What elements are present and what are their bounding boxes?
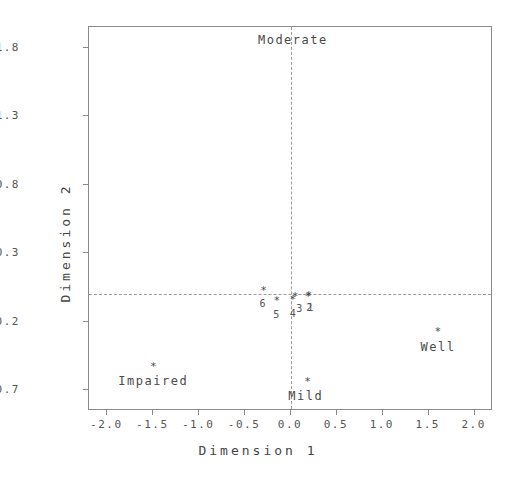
x-axis-tick-label: -1.0 bbox=[182, 418, 215, 431]
x-axis-tick-label: 1.0 bbox=[370, 418, 394, 431]
x-axis-tick bbox=[198, 410, 199, 415]
chart-canvas: Dimension 2 Dimension 1 -2.0-1.5-1.0-0.5… bbox=[0, 0, 516, 485]
data-point-marker: * bbox=[150, 360, 157, 371]
x-axis-tick bbox=[106, 410, 107, 415]
data-point-marker: * bbox=[435, 326, 442, 337]
x-axis-tick bbox=[290, 410, 291, 415]
y-axis-title: Dimension 2 bbox=[58, 183, 73, 302]
y-axis-tick-label: 0.8 bbox=[0, 177, 20, 190]
y-axis-tick-label: -0.7 bbox=[0, 383, 20, 396]
group-point-label: Moderate bbox=[258, 34, 328, 46]
x-axis-tick bbox=[382, 410, 383, 415]
item-point-label: 4 bbox=[290, 309, 296, 319]
item-point-label: 2 bbox=[306, 303, 312, 313]
y-axis-tick-label: 0.3 bbox=[0, 246, 20, 259]
x-axis-tick-label: 2.0 bbox=[461, 418, 485, 431]
item-point-label: 6 bbox=[260, 299, 266, 309]
x-axis-tick-label: 1.5 bbox=[416, 418, 440, 431]
data-point-marker: * bbox=[260, 285, 267, 296]
plot-clip: *Moderate*Well*Impaired*Mild*1*2*3*4*5*6 bbox=[89, 27, 491, 409]
y-axis-tick-label: 1.3 bbox=[0, 109, 20, 122]
item-point-label: 5 bbox=[273, 310, 279, 320]
x-axis-tick bbox=[244, 410, 245, 415]
reference-line-vertical bbox=[291, 27, 292, 409]
x-axis-tick-label: 0.5 bbox=[324, 418, 348, 431]
x-axis-title: Dimension 1 bbox=[0, 443, 516, 458]
data-point-marker: * bbox=[290, 27, 297, 30]
group-point-label: Mild bbox=[288, 390, 323, 402]
y-axis-tick-label: -0.2 bbox=[0, 314, 20, 327]
data-point-marker: * bbox=[273, 294, 280, 305]
x-axis-tick-label: -1.5 bbox=[136, 418, 169, 431]
data-point-marker: * bbox=[304, 375, 311, 386]
group-point-label: Impaired bbox=[118, 375, 188, 387]
x-axis-tick bbox=[474, 410, 475, 415]
x-axis-tick-label: -2.0 bbox=[90, 418, 123, 431]
data-point-marker: * bbox=[305, 290, 312, 301]
x-axis-tick bbox=[428, 410, 429, 415]
data-point-marker: * bbox=[290, 294, 297, 305]
x-axis-tick bbox=[336, 410, 337, 415]
x-axis-tick bbox=[152, 410, 153, 415]
item-point-label: 3 bbox=[296, 304, 302, 314]
x-axis-tick-label: 0.0 bbox=[278, 418, 302, 431]
plot-area: *Moderate*Well*Impaired*Mild*1*2*3*4*5*6 bbox=[88, 26, 492, 410]
group-point-label: Well bbox=[420, 341, 455, 353]
y-axis-tick-label: 1.8 bbox=[0, 40, 20, 53]
x-axis-tick-label: -0.5 bbox=[228, 418, 261, 431]
